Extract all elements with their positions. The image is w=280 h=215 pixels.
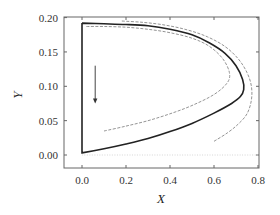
plot-frame: [64, 17, 259, 168]
series-group: [82, 21, 258, 155]
x-tick-label: 0.6: [207, 174, 221, 186]
x-tick-label: 0.4: [163, 174, 177, 186]
chart: 0.00.20.40.60.8 0.000.050.100.150.20 X Y: [0, 0, 280, 215]
x-tick-label: 0.8: [251, 174, 265, 186]
series-outer-dashed: [122, 21, 252, 141]
y-tick-label: 0.00: [39, 149, 59, 161]
y-tick-label: 0.10: [39, 80, 59, 92]
y-tick-label: 0.05: [39, 115, 59, 127]
arrow-down-icon: [93, 98, 97, 103]
x-axis-ticks: 0.00.20.40.60.8: [75, 17, 265, 186]
plot-border: [64, 17, 259, 168]
y-tick-label: 0.20: [39, 12, 59, 24]
y-axis-label: Y: [10, 90, 25, 99]
x-axis-label: X: [156, 191, 166, 206]
y-tick-label: 0.15: [39, 46, 59, 58]
annotations: [93, 66, 97, 104]
x-tick-label: 0.2: [119, 174, 133, 186]
x-tick-label: 0.0: [75, 174, 89, 186]
